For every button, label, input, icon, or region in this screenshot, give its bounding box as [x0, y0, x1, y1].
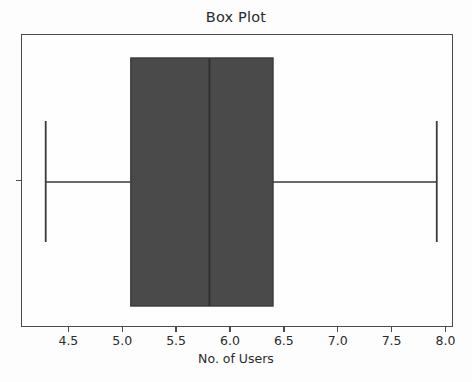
x-tick-mark — [445, 327, 446, 332]
x-tick-label: 5.5 — [146, 333, 206, 348]
x-tick-mark — [175, 327, 176, 332]
box-plot-graphic — [22, 35, 454, 328]
x-tick-label: 6.5 — [254, 333, 314, 348]
y-tick-mark — [16, 180, 21, 181]
x-tick-mark — [229, 327, 230, 332]
x-tick-mark — [122, 327, 123, 332]
x-axis-label: No. of Users — [0, 351, 472, 366]
box-plot-figure: Box Plot 4.55.05.56.06.57.07.58.0 No. of… — [0, 0, 472, 382]
x-tick-mark — [391, 327, 392, 332]
chart-title: Box Plot — [0, 9, 472, 25]
x-tick-mark — [337, 327, 338, 332]
box-series-group — [46, 58, 437, 306]
x-tick-label: 4.5 — [38, 333, 98, 348]
x-tick-label: 6.0 — [200, 333, 260, 348]
box-iqr-rect — [131, 58, 273, 306]
x-tick-label: 5.0 — [92, 333, 152, 348]
x-tick-mark — [283, 327, 284, 332]
x-tick-label: 7.5 — [362, 333, 422, 348]
plot-area — [21, 34, 453, 327]
x-tick-label: 8.0 — [415, 333, 472, 348]
x-tick-mark — [68, 327, 69, 332]
x-tick-label: 7.0 — [308, 333, 368, 348]
